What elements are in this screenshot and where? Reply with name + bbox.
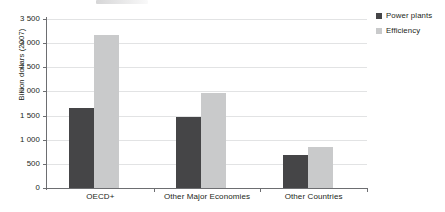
y-tick-label: 2 500 xyxy=(0,62,40,71)
y-tick-label: 1 000 xyxy=(0,135,40,144)
plot-area xyxy=(47,19,367,188)
y-tick-label: 1 500 xyxy=(0,111,40,120)
legend-item: Power plants xyxy=(376,9,432,22)
category-label: OECD+ xyxy=(47,192,154,201)
legend-label: Efficiency xyxy=(386,26,420,35)
bar-chart: Billion dollars (2007) 05001 0001 5002 0… xyxy=(0,0,445,212)
bar-power-plants-other-countries xyxy=(283,155,308,188)
chart-legend: Power plantsEfficiency xyxy=(376,9,432,39)
category-label: Other Countries xyxy=(260,192,367,201)
y-tick-label: 0 xyxy=(0,183,40,192)
bar-power-plants-oecd- xyxy=(69,108,94,188)
bar-efficiency-other-major-economies xyxy=(201,93,226,188)
x-axis-line xyxy=(46,188,368,189)
bar-efficiency-other-countries xyxy=(308,147,333,188)
y-tick-label: 2 000 xyxy=(0,86,40,95)
y-tick-mark xyxy=(43,188,47,189)
x-axis-end-tick xyxy=(367,188,368,192)
category-label: Other Major Economies xyxy=(154,192,261,201)
y-tick-label: 3 500 xyxy=(0,14,40,23)
legend-swatch-icon xyxy=(376,13,382,19)
y-tick-label: 500 xyxy=(0,159,40,168)
scan-artifact xyxy=(96,0,148,4)
legend-item: Efficiency xyxy=(376,24,432,37)
y-tick-label: 3 000 xyxy=(0,38,40,47)
legend-swatch-icon xyxy=(376,28,382,34)
bar-efficiency-oecd- xyxy=(94,35,119,188)
legend-label: Power plants xyxy=(386,11,432,20)
bar-power-plants-other-major-economies xyxy=(176,117,201,188)
